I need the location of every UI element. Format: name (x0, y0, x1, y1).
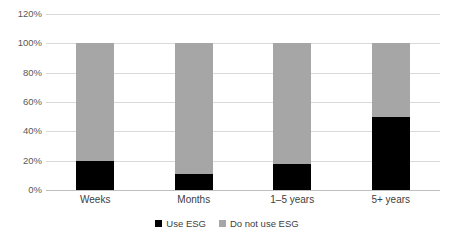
legend-entry[interactable]: Use ESG (155, 218, 206, 229)
bar-segment[interactable] (372, 43, 410, 116)
bar-group[interactable] (175, 14, 213, 190)
bar-segment[interactable] (273, 43, 311, 163)
bar-segment[interactable] (76, 43, 114, 160)
legend-swatch-icon (155, 220, 162, 227)
x-tick-label: Weeks (46, 193, 145, 207)
gridline-0 (46, 190, 440, 191)
bar-segment[interactable] (273, 164, 311, 190)
stacked-bar-chart: 0%20%40%60%80%100%120% WeeksMonths1–5 ye… (0, 0, 454, 244)
y-axis: 0%20%40%60%80%100%120% (0, 14, 42, 190)
bar-group[interactable] (372, 14, 410, 190)
bar-segment[interactable] (175, 43, 213, 174)
bar-segment[interactable] (76, 161, 114, 190)
y-tick-label: 100% (2, 38, 42, 48)
x-tick-label: 1–5 years (243, 193, 342, 207)
y-tick-label: 20% (2, 156, 42, 166)
bar-group[interactable] (76, 14, 114, 190)
bar-segment[interactable] (372, 117, 410, 190)
y-tick-label: 40% (2, 126, 42, 136)
bar-segment[interactable] (175, 174, 213, 190)
legend-label: Use ESG (166, 218, 206, 229)
y-tick-label: 80% (2, 68, 42, 78)
plot-area (46, 14, 440, 190)
x-axis: WeeksMonths1–5 years5+ years (46, 193, 440, 211)
legend-swatch-icon (219, 220, 226, 227)
legend-label: Do not use ESG (230, 218, 299, 229)
x-tick-label: 5+ years (342, 193, 441, 207)
bar-group[interactable] (273, 14, 311, 190)
legend-entry[interactable]: Do not use ESG (219, 218, 299, 229)
chart-legend: Use ESGDo not use ESG (0, 218, 454, 229)
y-tick-label: 120% (2, 9, 42, 19)
x-tick-label: Months (145, 193, 244, 207)
y-tick-label: 0% (2, 185, 42, 195)
y-tick-label: 60% (2, 97, 42, 107)
